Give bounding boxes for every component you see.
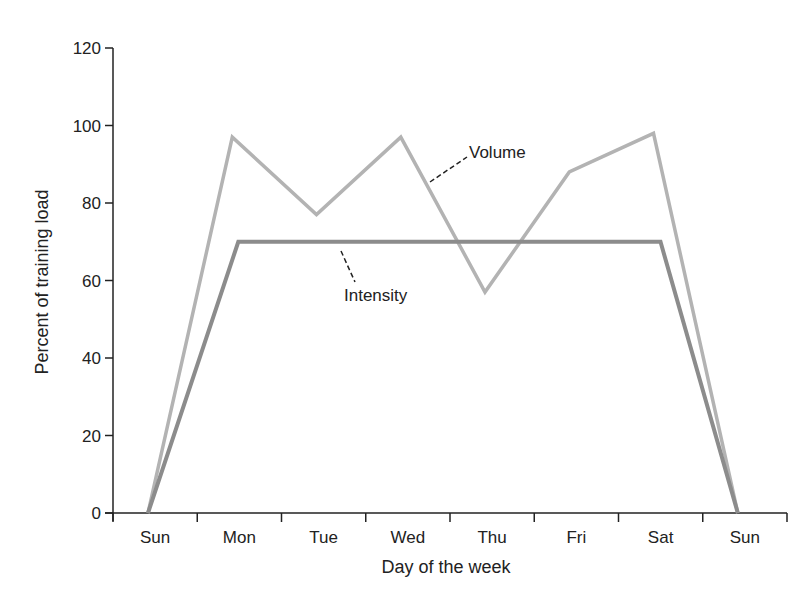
- x-tick-label: Wed: [391, 528, 426, 547]
- x-tick-label: Fri: [566, 528, 586, 547]
- volume-annotation: Volume: [469, 143, 526, 162]
- y-tick-label: 100: [73, 117, 101, 136]
- y-axis: 020406080100120: [73, 39, 113, 523]
- x-axis-title: Day of the week: [381, 557, 511, 577]
- series-volume-line: [148, 133, 738, 513]
- y-tick-label: 60: [82, 272, 101, 291]
- y-tick-label: 0: [92, 504, 101, 523]
- x-tick-label: Sat: [648, 528, 674, 547]
- y-axis-title: Percent of training load: [32, 189, 52, 374]
- series-intensity-line: [148, 242, 738, 513]
- x-tick-label: Sun: [730, 528, 760, 547]
- volume-leader-line: [430, 157, 467, 182]
- x-tick-label: Thu: [477, 528, 506, 547]
- series-lines: [148, 133, 738, 513]
- x-tick-label: Tue: [309, 528, 338, 547]
- y-tick-label: 80: [82, 194, 101, 213]
- line-chart: 020406080100120 SunMonTueWedThuFriSatSun…: [0, 0, 809, 607]
- intensity-leader-line: [341, 251, 355, 282]
- x-axis: SunMonTueWedThuFriSatSun: [105, 513, 787, 547]
- y-tick-label: 20: [82, 427, 101, 446]
- x-tick-label: Mon: [223, 528, 256, 547]
- intensity-annotation: Intensity: [344, 286, 408, 305]
- y-tick-label: 40: [82, 349, 101, 368]
- y-tick-label: 120: [73, 39, 101, 58]
- x-tick-label: Sun: [140, 528, 170, 547]
